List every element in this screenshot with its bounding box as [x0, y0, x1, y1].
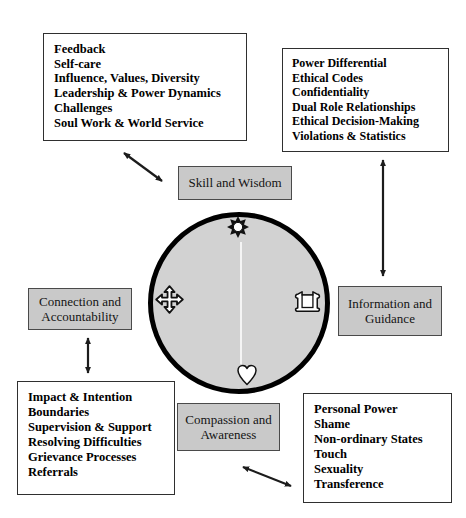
topics-box-skill-wisdom: Feedback Self-care Influence, Values, Di…	[43, 33, 247, 141]
center-axis-line	[240, 242, 242, 364]
label-skill-and-wisdom: Skill and Wisdom	[178, 166, 292, 200]
topic-item: Personal Power	[314, 402, 451, 417]
heart-icon	[236, 363, 258, 387]
topic-item: Supervision & Support	[28, 420, 174, 435]
topic-item: Transference	[314, 477, 451, 492]
topic-item: Impact & Intention	[28, 390, 174, 405]
topic-item: Feedback	[54, 42, 246, 57]
topic-item: Leadership & Power Dynamics	[54, 86, 246, 101]
topics-box-information-guidance: Power Differential Ethical Codes Confide…	[282, 48, 449, 152]
move-arrows-icon	[155, 285, 184, 314]
topic-item: Self-care	[54, 57, 246, 72]
label-text: Connection and Accountability	[33, 294, 127, 325]
arrow-feedback-to-skill-wisdom	[124, 153, 162, 181]
topic-item: Referrals	[28, 465, 174, 480]
label-compassion-and-awareness: Compassion and Awareness	[177, 403, 280, 451]
label-information-and-guidance: Information and Guidance	[338, 286, 442, 336]
topic-item: Grievance Processes	[28, 450, 174, 465]
arrow-compassion-to-personal-power	[243, 467, 291, 486]
label-text: Skill and Wisdom	[188, 175, 281, 191]
topic-item: Boundaries	[28, 405, 174, 420]
sun-icon	[226, 215, 250, 239]
topic-item: Violations & Statistics	[292, 129, 448, 144]
topic-item: Power Differential	[292, 56, 448, 71]
topic-item: Resolving Difficulties	[28, 435, 174, 450]
topic-item: Shame	[314, 417, 451, 432]
topic-item: Influence, Values, Diversity	[54, 71, 246, 86]
label-connection-and-accountability: Connection and Accountability	[28, 288, 132, 330]
topic-item: Challenges	[54, 101, 246, 116]
ethics-mandala-diagram: Feedback Self-care Influence, Values, Di…	[0, 0, 466, 518]
topic-item: Soul Work & World Service	[54, 116, 246, 131]
topics-box-compassion-awareness: Personal Power Shame Non-ordinary States…	[303, 393, 452, 503]
topic-item: Dual Role Relationships	[292, 100, 448, 115]
topic-item: Non-ordinary States	[314, 432, 451, 447]
topic-item: Confidentiality	[292, 85, 448, 100]
topic-item: Ethical Codes	[292, 71, 448, 86]
topic-item: Sexuality	[314, 462, 451, 477]
scroll-icon	[291, 288, 324, 314]
label-text: Information and Guidance	[345, 296, 435, 327]
topic-item: Ethical Decision-Making	[292, 114, 448, 129]
topics-box-connection-accountability: Impact & Intention Boundaries Supervisio…	[17, 381, 175, 495]
label-text: Compassion and Awareness	[184, 412, 273, 443]
topic-item: Touch	[314, 447, 451, 462]
